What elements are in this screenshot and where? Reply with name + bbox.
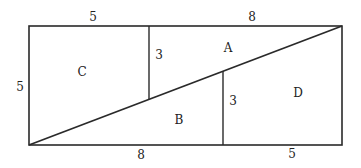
label-lower-divider-length: 3 [229, 95, 237, 107]
label-top-right-length: 8 [248, 11, 256, 23]
label-bottom-left-length: 8 [137, 149, 145, 161]
diagram-lines [0, 0, 361, 168]
region-label-c: C [77, 66, 86, 78]
region-label-b: B [175, 114, 184, 126]
label-left-height: 5 [16, 81, 24, 93]
label-top-left-length: 5 [89, 11, 97, 23]
label-upper-divider-length: 3 [155, 49, 163, 61]
region-label-d: D [293, 87, 303, 99]
label-bottom-right-length: 5 [288, 148, 296, 160]
diagram-canvas: 5 8 5 3 3 8 5 A B C D [0, 0, 361, 168]
region-label-a: A [224, 42, 233, 54]
